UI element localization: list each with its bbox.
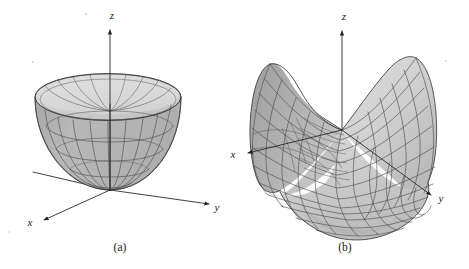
quadric-surfaces-figure: x y z (a) <box>0 0 469 269</box>
figure-canvas: x y z (a) <box>0 0 469 269</box>
panel-b: x y z (b) <box>230 10 444 254</box>
panel-a-label-x: x <box>27 216 33 228</box>
panel-a-axis-x <box>44 190 110 220</box>
panel-b-label-y: y <box>438 192 444 204</box>
panel-a: x y z (a) <box>27 9 220 254</box>
panel-a-label-y: y <box>214 201 220 213</box>
panel-b-label-x: x <box>230 148 236 160</box>
panel-b-label-z: z <box>341 10 347 22</box>
panel-a-surface <box>35 74 181 191</box>
panel-b-surface <box>250 57 437 240</box>
panel-b-caption: (b) <box>338 241 352 254</box>
panel-a-label-z: z <box>109 9 115 21</box>
panel-a-axis-y <box>110 190 209 204</box>
panel-a-caption: (a) <box>114 241 127 254</box>
